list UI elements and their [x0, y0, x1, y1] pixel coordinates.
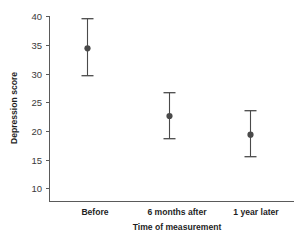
depression-score-error-bar-chart: 40 35 30 25 20 15 10 Depression score	[0, 0, 302, 243]
x-tick-label-before: Before	[81, 207, 108, 217]
x-tick-label-1-year-later: 1 year later	[233, 207, 279, 217]
y-axis-title: Depression score	[9, 72, 19, 144]
y-tick-label-15: 15	[31, 155, 42, 166]
data-point-marker	[166, 113, 172, 119]
y-tick-label-35: 35	[31, 40, 42, 51]
y-tick-label-30: 30	[31, 69, 42, 80]
x-axis-title: Time of measurement	[133, 222, 222, 232]
y-tick-label-40: 40	[31, 11, 42, 22]
chart-figure: 40 35 30 25 20 15 10 Depression score	[0, 0, 302, 243]
y-tick-label-25: 25	[31, 97, 42, 108]
y-tick-label-10: 10	[31, 183, 42, 194]
error-bar-before	[82, 19, 94, 76]
error-bar-1-year-later	[245, 111, 257, 157]
data-point-marker	[84, 45, 90, 51]
error-bar-6-months-after	[164, 93, 176, 139]
y-tick-label-20: 20	[31, 126, 42, 137]
data-point-marker	[247, 132, 253, 138]
x-tick-label-6-months-after: 6 months after	[147, 207, 207, 217]
y-axis-ticks	[46, 17, 50, 189]
